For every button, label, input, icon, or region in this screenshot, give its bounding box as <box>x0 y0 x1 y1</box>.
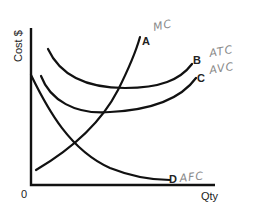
axes <box>31 28 215 185</box>
avc-marker-label: C <box>197 72 205 84</box>
mc-handwritten: MC <box>152 17 173 34</box>
atc-curve <box>48 49 192 88</box>
cost-curves-chart: Cost $ 0 Qty A B C D MC ATC AVC AFC <box>0 0 260 216</box>
x-axis-label: Qty <box>201 190 219 202</box>
afc-handwritten: AFC <box>178 169 205 185</box>
origin-label: 0 <box>21 188 27 200</box>
avc-handwritten: AVC <box>207 60 235 77</box>
afc-marker-label: D <box>169 173 177 185</box>
mc-marker-label: A <box>142 35 150 47</box>
chart-svg: Cost $ 0 Qty A B C D MC ATC AVC AFC <box>0 0 260 216</box>
avc-curve <box>41 76 196 112</box>
atc-marker-label: B <box>193 54 201 66</box>
afc-curve <box>31 75 170 180</box>
y-axis-label: Cost $ <box>12 30 24 62</box>
atc-handwritten: ATC <box>207 43 234 60</box>
